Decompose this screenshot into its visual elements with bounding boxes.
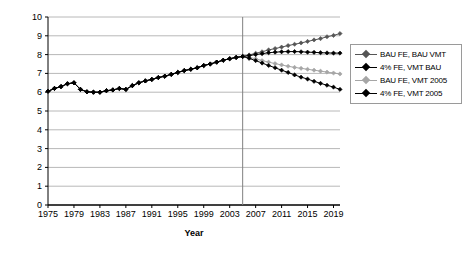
- data-point: [111, 88, 115, 92]
- legend-label: BAU FE, VMT 2005: [377, 76, 447, 85]
- data-point: [98, 90, 102, 94]
- data-point: [325, 35, 329, 39]
- data-point: [312, 68, 316, 72]
- x-axis-title: Year: [48, 228, 340, 238]
- data-point: [267, 63, 271, 67]
- data-point: [208, 62, 212, 66]
- data-point: [163, 74, 167, 78]
- legend-label: BAU FE, BAU VMT: [377, 50, 446, 59]
- legend-marker-icon: [355, 49, 377, 60]
- series-line: [46, 54, 342, 94]
- data-point: [221, 58, 225, 62]
- gasoline-consumption-chart: Million barrels gasoline/day 01234567891…: [0, 0, 465, 255]
- legend-item[interactable]: 4% FE, VMT BAU: [353, 61, 459, 74]
- plot-area: [0, 0, 465, 255]
- data-point: [312, 38, 316, 42]
- data-point: [305, 67, 309, 71]
- series-line: [46, 54, 342, 94]
- legend-marker-icon: [355, 62, 377, 73]
- data-point: [286, 70, 290, 74]
- legend-item[interactable]: 4% FE, VMT 2005: [353, 87, 459, 100]
- legend-label: 4% FE, VMT BAU: [377, 63, 441, 72]
- data-point: [338, 87, 342, 91]
- legend-item[interactable]: BAU FE, BAU VMT: [353, 48, 459, 61]
- series-line: [46, 31, 342, 94]
- data-point: [273, 62, 277, 66]
- data-point: [65, 82, 69, 86]
- data-point: [273, 50, 277, 54]
- data-point: [331, 85, 335, 89]
- data-point: [202, 63, 206, 67]
- data-point: [150, 77, 154, 81]
- data-point: [143, 79, 147, 83]
- data-point: [280, 45, 284, 49]
- data-point: [292, 42, 296, 46]
- data-point: [338, 31, 342, 35]
- data-point: [156, 75, 160, 79]
- data-point: [137, 81, 141, 85]
- data-point: [280, 68, 284, 72]
- data-point: [215, 60, 219, 64]
- data-point: [195, 66, 199, 70]
- data-point: [280, 63, 284, 67]
- data-point: [91, 90, 95, 94]
- data-point: [299, 41, 303, 45]
- legend-marker-icon: [355, 88, 377, 99]
- chart-legend: BAU FE, BAU VMT4% FE, VMT BAUBAU FE, VMT…: [350, 44, 462, 104]
- data-point: [331, 33, 335, 37]
- data-point: [117, 86, 121, 90]
- data-point: [228, 57, 232, 61]
- data-point: [305, 50, 309, 54]
- data-point: [312, 79, 316, 83]
- data-point: [286, 64, 290, 68]
- data-point: [305, 77, 309, 81]
- data-point: [338, 72, 342, 76]
- data-point: [234, 55, 238, 59]
- legend-marker-icon: [355, 75, 377, 86]
- data-point: [299, 50, 303, 54]
- data-point: [318, 37, 322, 41]
- data-point: [189, 67, 193, 71]
- data-point: [286, 43, 290, 47]
- data-point: [169, 72, 173, 76]
- data-point: [331, 71, 335, 75]
- data-point: [312, 50, 316, 54]
- data-point: [59, 84, 63, 88]
- data-point: [292, 65, 296, 69]
- data-point: [318, 81, 322, 85]
- series-line: [46, 49, 342, 94]
- data-point: [52, 86, 56, 90]
- data-point: [182, 68, 186, 72]
- data-point: [299, 75, 303, 79]
- legend-label: 4% FE, VMT 2005: [377, 89, 442, 98]
- data-point: [299, 66, 303, 70]
- data-point: [280, 50, 284, 54]
- data-point: [292, 49, 296, 53]
- data-point: [176, 70, 180, 74]
- data-point: [318, 69, 322, 73]
- data-point: [124, 87, 128, 91]
- data-point: [130, 84, 134, 88]
- data-point: [325, 83, 329, 87]
- legend-item[interactable]: BAU FE, VMT 2005: [353, 74, 459, 87]
- data-point: [305, 39, 309, 43]
- data-point: [286, 49, 290, 53]
- data-point: [273, 66, 277, 70]
- data-point: [46, 89, 50, 93]
- data-point: [85, 90, 89, 94]
